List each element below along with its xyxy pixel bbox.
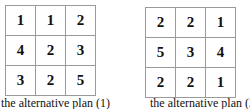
- grid-cell: 2: [176, 68, 206, 98]
- grid-cell: 2: [36, 36, 66, 66]
- plan-1-caption: the alternative plan (1): [1, 96, 110, 109]
- grid-cell: 2: [36, 66, 66, 96]
- grid-cell: 3: [176, 38, 206, 68]
- grid-row: 3 2 5: [6, 66, 96, 96]
- grid-cell: 5: [66, 66, 96, 96]
- grid-cell: 5: [146, 38, 176, 68]
- grid-cell: 1: [36, 6, 66, 36]
- grid-cell: 3: [6, 66, 36, 96]
- plan-2-caption: the alternative plan (2): [150, 96, 250, 109]
- grid-row: 2 2 1: [146, 68, 236, 98]
- grid-cell: 2: [66, 6, 96, 36]
- grid-row: 1 1 2: [6, 6, 96, 36]
- grid-cell: 1: [6, 6, 36, 36]
- grid-cell: 3: [66, 36, 96, 66]
- grid-row: 5 3 4: [146, 38, 236, 68]
- grid-cell: 2: [146, 68, 176, 98]
- grid-cell: 4: [6, 36, 36, 66]
- plan-1-grid: 1 1 2 4 2 3 3 2 5: [5, 5, 96, 96]
- plan-2-grid: 2 2 1 5 3 4 2 2 1: [145, 7, 236, 98]
- grid-cell: 1: [206, 68, 236, 98]
- grid-cell: 4: [206, 38, 236, 68]
- grid-cell: 2: [176, 8, 206, 38]
- grid-cell: 2: [146, 8, 176, 38]
- grid-cell: 1: [206, 8, 236, 38]
- grid-row: 4 2 3: [6, 36, 96, 66]
- grid-row: 2 2 1: [146, 8, 236, 38]
